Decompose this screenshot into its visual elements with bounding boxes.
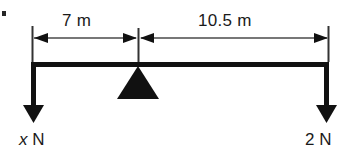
dimension-arrowhead-right-end (314, 33, 328, 43)
dimension-arrowhead-left-end (123, 33, 137, 43)
force-arrowhead-right-icon (316, 105, 337, 123)
fulcrum-triangle-icon (117, 66, 159, 99)
force-label-left: x N (19, 131, 45, 148)
force-unit-left: N (28, 130, 45, 149)
lever-diagram: 7 m 10.5 m x N 2 N (0, 0, 356, 154)
dimension-arrowhead-left-start (34, 33, 48, 43)
force-arrowhead-left-icon (23, 105, 44, 123)
force-symbol-left: x (19, 130, 28, 149)
lever-diagram-graphics (0, 0, 356, 154)
dimension-label-right: 10.5 m (198, 12, 252, 29)
dimension-arrowhead-right-start (140, 33, 154, 43)
dimension-label-left: 7 m (62, 12, 91, 29)
force-unit-right: N (314, 130, 331, 149)
force-label-right: 2 N (305, 131, 331, 148)
